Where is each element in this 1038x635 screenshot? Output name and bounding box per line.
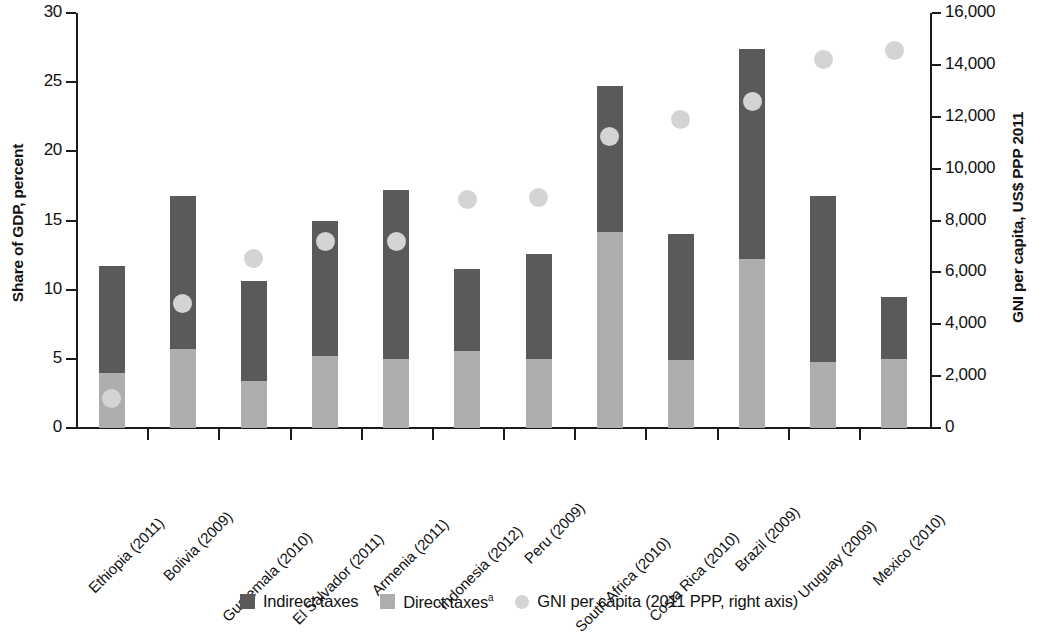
x-axis-tick <box>290 429 292 440</box>
legend-circle-icon <box>515 595 529 609</box>
gni-per-capita-marker <box>387 232 406 251</box>
legend-square-dark-icon <box>240 594 255 609</box>
bar-segment-indirect-taxes <box>241 281 267 381</box>
bar-segment-direct-taxes <box>454 351 480 428</box>
gni-per-capita-marker <box>244 249 263 268</box>
y-axis-right-tick-label: 2,000 <box>945 365 986 385</box>
x-axis-tick <box>432 429 434 440</box>
y-axis-right-tick-label: 4,000 <box>945 313 986 333</box>
bar-segment-indirect-taxes <box>597 86 623 231</box>
x-axis-category-label: Uruguay (2009) <box>795 517 880 602</box>
y-axis-left-tick <box>66 81 76 83</box>
stacked-bar <box>526 254 552 428</box>
bar-segment-direct-taxes <box>241 381 267 428</box>
x-axis-tick <box>218 429 220 440</box>
x-axis-category-label: Bolivia (2009) <box>159 508 235 584</box>
legend-item[interactable]: Direct taxesa <box>380 592 493 612</box>
y-axis-right-tick <box>932 12 941 14</box>
y-axis-right-tick-label: 14,000 <box>945 54 995 74</box>
x-axis-tick <box>788 429 790 440</box>
y-axis-right-tick <box>932 64 941 66</box>
gni-per-capita-marker <box>885 41 904 60</box>
x-axis-tick <box>717 429 719 440</box>
x-axis-tick <box>503 429 505 440</box>
bar-segment-direct-taxes <box>668 360 694 428</box>
bar-segment-indirect-taxes <box>526 254 552 359</box>
x-axis-category-label: Mexico (2010) <box>870 510 948 588</box>
legend-square-light-icon <box>380 594 395 609</box>
y-axis-right-tick <box>932 168 941 170</box>
y-axis-left-tick-label: 0 <box>0 417 62 437</box>
bar-segment-indirect-taxes <box>99 266 125 373</box>
y-axis-left-tick <box>66 358 76 360</box>
x-axis-tick <box>645 429 647 440</box>
bar-segment-direct-taxes <box>383 359 409 428</box>
y-axis-right-tick-label: 6,000 <box>945 261 986 281</box>
y-axis-right-tick <box>932 427 941 429</box>
stacked-bar <box>668 234 694 428</box>
bar-segment-direct-taxes <box>810 362 836 428</box>
legend-label: Direct taxesa <box>403 592 493 612</box>
legend-item[interactable]: GNI per capita (2011 PPP, right axis) <box>515 592 798 611</box>
legend-footnote-marker: a <box>488 592 493 603</box>
bar-segment-direct-taxes <box>526 359 552 428</box>
y-axis-right-tick-label: 0 <box>945 417 954 437</box>
gni-per-capita-marker <box>316 232 335 251</box>
gni-per-capita-marker <box>743 92 762 111</box>
y-axis-right-tick-label: 8,000 <box>945 210 986 230</box>
bar-segment-indirect-taxes <box>668 234 694 360</box>
bar-segment-direct-taxes <box>881 359 907 428</box>
y-axis-left-tick-label: 5 <box>0 348 62 368</box>
y-axis-right-tick <box>932 116 941 118</box>
y-axis-left-tick-label: 30 <box>0 2 62 22</box>
stacked-bar <box>881 297 907 428</box>
y-axis-right-tick-label: 16,000 <box>945 2 995 22</box>
x-axis-category-label: Armenia (2011) <box>368 515 451 598</box>
x-axis-tick <box>574 429 576 440</box>
bar-segment-indirect-taxes <box>454 269 480 351</box>
y-axis-right-title: GNI per capita, US$ PPP 2011 <box>1009 123 1027 323</box>
y-axis-right-tick <box>932 323 941 325</box>
y-axis-left-tick-label: 15 <box>0 210 62 230</box>
bar-segment-direct-taxes <box>170 349 196 428</box>
gni-per-capita-marker <box>102 389 121 408</box>
gni-per-capita-marker <box>600 127 619 146</box>
x-axis-category-label: Brazil (2009) <box>731 503 802 574</box>
gni-per-capita-marker <box>458 190 477 209</box>
y-axis-left-tick-label: 25 <box>0 71 62 91</box>
y-axis-left-tick <box>66 220 76 222</box>
bar-segment-indirect-taxes <box>881 297 907 359</box>
y-axis-right-tick <box>932 220 941 222</box>
stacked-bar <box>312 221 338 429</box>
x-axis-tick <box>859 429 861 440</box>
bar-segment-indirect-taxes <box>383 190 409 359</box>
legend-label: Indirect taxes <box>263 592 358 611</box>
y-axis-left-tick <box>66 427 76 429</box>
bar-segment-direct-taxes <box>312 356 338 428</box>
y-axis-right-line <box>930 13 932 429</box>
x-axis-tick <box>361 429 363 440</box>
legend-label: GNI per capita (2011 PPP, right axis) <box>537 592 798 611</box>
x-axis-category-label: Peru (2009) <box>520 499 587 566</box>
stacked-bar <box>241 281 267 428</box>
gni-per-capita-marker <box>671 110 690 129</box>
bar-segment-direct-taxes <box>739 259 765 428</box>
y-axis-left-tick <box>66 150 76 152</box>
legend-item[interactable]: Indirect taxes <box>240 592 358 611</box>
gni-per-capita-marker <box>529 188 548 207</box>
bar-segment-indirect-taxes <box>170 196 196 350</box>
x-axis-tick <box>147 429 149 440</box>
bar-segment-direct-taxes <box>597 232 623 428</box>
y-axis-right-tick <box>932 375 941 377</box>
x-axis-category-label: Ethiopia (2011) <box>85 514 167 596</box>
plot-area <box>76 13 930 428</box>
stacked-bar <box>810 196 836 428</box>
stacked-bar <box>383 190 409 428</box>
y-axis-right-tick-label: 12,000 <box>945 106 995 126</box>
y-axis-left-tick <box>66 289 76 291</box>
stacked-bar <box>454 269 480 428</box>
gni-per-capita-marker <box>814 50 833 69</box>
y-axis-right-tick-label: 10,000 <box>945 158 995 178</box>
bar-segment-indirect-taxes <box>739 49 765 259</box>
